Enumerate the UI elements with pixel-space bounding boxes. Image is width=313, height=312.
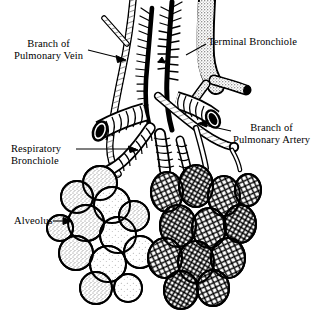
label-pulmonary-artery-line2: Pulmonary Artery [233, 134, 310, 146]
respiratory-bronchiole-vessel [108, 128, 190, 172]
label-pulmonary-vein-line1: Branch of [14, 38, 83, 50]
label-alveolus: Alveolus [14, 215, 53, 227]
label-respiratory-bronchiole-line1: Respiratory [11, 143, 61, 155]
alveoli-cluster-capillary [148, 165, 261, 309]
pulmonary-lobule-diagram: Branch of Pulmonary Vein Terminal Bronch… [0, 0, 313, 312]
leader-pulmonary-vein [88, 50, 126, 63]
label-terminal-bronchiole-line1: Terminal Bronchiole [208, 36, 297, 48]
leader-terminal-bronchiole-arrow [158, 57, 165, 63]
label-pulmonary-artery: Branch of Pulmonary Artery [233, 122, 310, 145]
label-terminal-bronchiole: Terminal Bronchiole [208, 36, 297, 48]
terminal-bronchiole-vessel [189, 0, 251, 108]
label-pulmonary-artery-line1: Branch of [233, 122, 310, 134]
label-alveolus-line1: Alveolus [14, 215, 53, 227]
label-respiratory-bronchiole-line2: Bronchiole [11, 155, 61, 167]
label-pulmonary-vein-line2: Pulmonary Vein [14, 50, 83, 62]
label-pulmonary-vein: Branch of Pulmonary Vein [14, 38, 83, 61]
alveoli-cluster-plain [47, 166, 156, 304]
label-respiratory-bronchiole: Respiratory Bronchiole [11, 143, 61, 166]
